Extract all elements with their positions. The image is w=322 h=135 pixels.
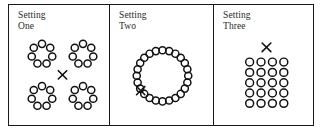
circle-marker-cluster-1 bbox=[69, 53, 76, 60]
circle-marker-cluster-2 bbox=[49, 95, 56, 102]
circle-marker-cluster-2 bbox=[43, 102, 50, 109]
panel-stage-setting-two bbox=[110, 5, 213, 125]
figure-root: Setting One Setting Two Setting Three bbox=[0, 0, 322, 135]
circle-marker-cluster-2 bbox=[47, 86, 54, 93]
circle-marker-grid bbox=[268, 99, 276, 107]
circle-marker-cluster-1 bbox=[84, 60, 91, 67]
circle-marker-cluster-2 bbox=[30, 86, 37, 93]
circle-marker-cluster-2 bbox=[38, 83, 45, 90]
circle-marker-cluster-2 bbox=[28, 95, 35, 102]
circle-marker-cluster-0 bbox=[49, 53, 56, 60]
circle-marker-grid bbox=[268, 58, 276, 66]
circle-marker-grid bbox=[257, 68, 265, 76]
cross-marker-center bbox=[58, 71, 66, 79]
circle-marker-grid bbox=[246, 99, 254, 107]
diagram-setting-two bbox=[110, 5, 213, 125]
circle-marker-grid bbox=[257, 58, 265, 66]
circle-marker-cluster-3 bbox=[69, 95, 76, 102]
circle-marker-grid bbox=[280, 68, 288, 76]
circle-marker-cluster-3 bbox=[75, 102, 82, 109]
circle-marker-cluster-0 bbox=[30, 44, 37, 51]
circle-marker-cluster-3 bbox=[84, 102, 91, 109]
panel-setting-three: Setting Three bbox=[213, 5, 315, 125]
circle-marker-cluster-0 bbox=[28, 53, 35, 60]
circle-marker-cluster-3 bbox=[79, 83, 86, 90]
circle-marker-grid bbox=[280, 89, 288, 97]
circle-marker-cluster-1 bbox=[75, 60, 82, 67]
cross-marker-above-grid bbox=[262, 43, 271, 52]
circle-marker-grid bbox=[268, 68, 276, 76]
circle-marker-cluster-1 bbox=[79, 40, 86, 47]
circle-marker-cluster-1 bbox=[90, 53, 97, 60]
circle-marker-cluster-1 bbox=[71, 44, 78, 51]
circle-marker-cluster-2 bbox=[34, 102, 41, 109]
panel-stage-setting-one bbox=[9, 5, 109, 125]
circle-marker-grid bbox=[268, 89, 276, 97]
circle-marker-cluster-3 bbox=[71, 86, 78, 93]
panel-setting-two: Setting Two bbox=[109, 5, 213, 125]
figure-frame: Setting One Setting Two Setting Three bbox=[8, 4, 314, 126]
panel-setting-one: Setting One bbox=[9, 5, 109, 125]
circle-marker-grid bbox=[246, 79, 254, 87]
circle-marker-grid bbox=[246, 68, 254, 76]
circle-marker-grid bbox=[268, 79, 276, 87]
circle-marker-grid bbox=[246, 89, 254, 97]
panel-stage-setting-three bbox=[214, 5, 315, 125]
circle-marker-grid bbox=[257, 89, 265, 97]
circle-marker-cluster-3 bbox=[90, 95, 97, 102]
circle-marker-grid bbox=[257, 79, 265, 87]
circle-marker-grid bbox=[280, 58, 288, 66]
circle-marker-cluster-0 bbox=[43, 60, 50, 67]
diagram-setting-one bbox=[9, 5, 109, 125]
circle-marker-grid bbox=[257, 99, 265, 107]
circle-marker-cluster-0 bbox=[38, 40, 45, 47]
diagram-setting-three bbox=[214, 5, 315, 125]
circle-marker-cluster-0 bbox=[47, 44, 54, 51]
circle-marker-cluster-1 bbox=[88, 44, 95, 51]
circle-marker-cluster-3 bbox=[88, 86, 95, 93]
circle-marker-cluster-0 bbox=[34, 60, 41, 67]
circle-marker-grid bbox=[246, 58, 254, 66]
circle-marker-grid bbox=[280, 79, 288, 87]
circle-marker-grid bbox=[280, 99, 288, 107]
